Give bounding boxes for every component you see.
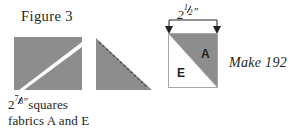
dimension-fraction: 12 (184, 5, 193, 19)
patch-label-e: E (177, 66, 185, 80)
dimension-inch-mark: ” (193, 6, 199, 17)
dimension-whole-number: 2 (177, 7, 184, 22)
make-quantity-label: Make 192 (229, 55, 287, 71)
dimension-fraction-denominator: 2 (188, 7, 192, 17)
caption-whole-number: 2 (8, 97, 15, 112)
quilting-figure-diagram: Figure 3 A E 212” Make 192 (0, 0, 295, 133)
caption-fabrics-line: fabrics A and E (8, 113, 89, 129)
step-1-marked-square (14, 37, 82, 90)
step-2-stitched-triangle (96, 38, 152, 90)
caption-squares-word: squares (28, 97, 68, 112)
step-3-finished-unit (169, 34, 218, 88)
patch-label-a: A (201, 47, 210, 61)
caption-size-line: 278”squares (8, 96, 68, 113)
step2-gray-triangle (96, 38, 152, 90)
dimension-arrow-left-icon (165, 26, 173, 34)
dimension-label: 212” (177, 5, 199, 23)
caption-fraction-denominator: 8 (19, 97, 23, 106)
dimension-arrow-right-icon (213, 26, 221, 34)
caption-fraction: 78 (15, 96, 24, 109)
